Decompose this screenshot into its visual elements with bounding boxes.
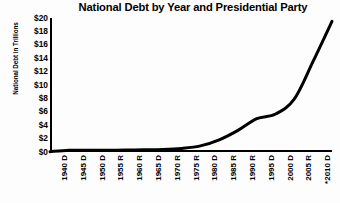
x-axis-tick-labels: 1940 D1945 D1950 D1955 R1960 R1965 D1970… bbox=[50, 154, 340, 203]
x-axis-tick: *2010 D bbox=[322, 155, 334, 201]
x-axis-tick: 1960 R bbox=[134, 155, 146, 201]
x-axis-tick: 1975 R bbox=[191, 155, 203, 201]
x-axis-tick: 1995 D bbox=[266, 155, 278, 201]
y-axis-tick: $10 bbox=[18, 81, 48, 90]
x-axis-tick: 1950 D bbox=[97, 155, 109, 201]
national-debt-line bbox=[50, 21, 332, 151]
x-axis-tick: 1985 R bbox=[228, 155, 240, 201]
y-axis-tick: $16 bbox=[18, 40, 48, 49]
y-axis-tick: $12 bbox=[18, 67, 48, 76]
x-axis-tick: 1990 R bbox=[247, 155, 259, 201]
chart-container: National Debt by Year and Presidential P… bbox=[0, 0, 340, 203]
chart-title: National Debt by Year and Presidential P… bbox=[48, 1, 338, 14]
y-axis-tick: $20 bbox=[18, 14, 48, 23]
x-axis-tick: 2005 R bbox=[303, 155, 315, 201]
y-axis-tick: $2 bbox=[18, 134, 48, 143]
y-axis-tick: $8 bbox=[18, 94, 48, 103]
plot-area bbox=[50, 18, 332, 152]
x-axis-tick: 1970 R bbox=[172, 155, 184, 201]
y-axis-tick: $0 bbox=[18, 148, 48, 157]
x-axis-tick: 1945 D bbox=[78, 155, 90, 201]
x-axis-tick: 2000 D bbox=[285, 155, 297, 201]
x-axis-tick: 1955 R bbox=[115, 155, 127, 201]
x-axis-tick: 1965 D bbox=[153, 155, 165, 201]
y-axis-tick-labels: $20$18$16$14$12$10$8$6$4$2$0 bbox=[18, 0, 48, 203]
x-axis-tick: 1940 D bbox=[59, 155, 71, 201]
x-axis-tick: 1980 D bbox=[209, 155, 221, 201]
y-axis-tick: $4 bbox=[18, 121, 48, 130]
y-axis-tick: $14 bbox=[18, 54, 48, 63]
y-axis-tick: $6 bbox=[18, 107, 48, 116]
y-axis-tick: $18 bbox=[18, 27, 48, 36]
data-line-series bbox=[50, 18, 332, 152]
